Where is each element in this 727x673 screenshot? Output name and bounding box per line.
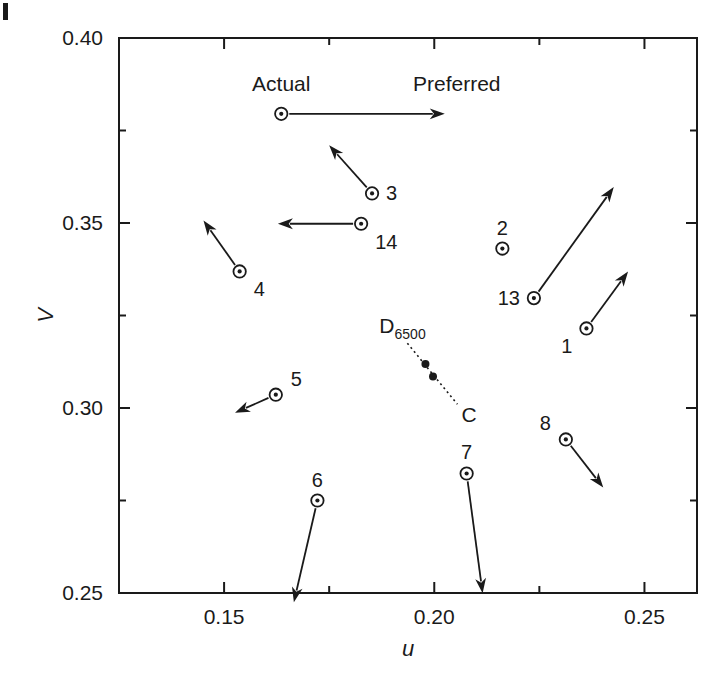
illuminant-point-c [429,373,437,381]
marker-5 [270,388,282,400]
marker-center-dot [279,112,283,116]
point-label-13: 13 [498,287,520,309]
y-axis-tick-labels: 0.400.350.300.25 [62,26,103,604]
data-point-1: 1 [561,271,628,357]
axis-ticks [119,38,697,593]
data-points: 123456781314 [203,145,628,602]
shift-arrow-6-shaft [297,508,316,590]
marker-7 [460,467,472,479]
marker-center-dot [274,393,278,397]
marker-6 [311,494,323,506]
data-point-8: 8 [540,412,604,487]
legend-marker [275,108,287,120]
scatter-plot: 0.400.350.300.25 0.150.200.25 V u Actual… [0,0,727,673]
shift-arrow-3-shaft [337,154,367,187]
marker-center-dot [359,222,363,226]
data-point-6: 6 [292,469,324,603]
shift-arrow-13-head [601,187,614,202]
x-tick-label: 0.20 [414,605,455,628]
marker-center-dot [584,326,588,330]
illuminant-d6500-label: D6500 [379,314,426,342]
y-tick-label: 0.35 [62,211,103,234]
data-point-3: 3 [329,145,397,204]
marker-13 [528,292,540,304]
shift-arrow-1-shaft [591,281,621,322]
shift-arrow-7-shaft [468,481,481,581]
y-tick-label: 0.30 [62,396,103,419]
marker-center-dot [465,471,469,475]
shift-arrow-1-head [615,271,628,286]
data-point-4: 4 [203,220,264,300]
marker-center-dot [500,246,504,250]
data-point-7: 7 [460,441,486,593]
marker-2 [496,242,508,254]
shift-arrow-4-head [203,220,216,235]
shift-arrow-8-shaft [571,446,596,478]
y-tick-label: 0.40 [62,26,103,49]
marker-center-dot [564,437,568,441]
illuminant-annotation: D6500C [379,314,476,426]
marker-center-dot [532,296,536,300]
marker-14 [355,218,367,230]
point-label-14: 14 [375,231,397,253]
point-label-8: 8 [540,412,551,434]
point-label-1: 1 [561,335,572,357]
marker-4 [233,265,245,277]
figure-container: 0.400.350.300.25 0.150.200.25 V u Actual… [0,0,727,673]
marker-8 [560,433,572,445]
illuminant-c-label: C [461,403,476,426]
preferred-label: Preferred [413,72,501,95]
point-label-5: 5 [291,368,302,390]
y-tick-label: 0.25 [62,581,103,604]
shift-arrow-5-shaft [246,398,269,408]
shift-arrow-8-head [590,472,603,487]
x-tick-label: 0.15 [204,605,245,628]
point-label-3: 3 [386,182,397,204]
point-label-7: 7 [461,441,472,463]
point-label-4: 4 [254,278,265,300]
data-point-13: 13 [498,187,614,309]
plot-frame [119,38,697,593]
marker-center-dot [370,191,374,195]
marker-center-dot [315,498,319,502]
data-point-2: 2 [496,217,508,255]
y-axis-title: V [33,306,58,323]
shift-arrow-4-shaft [210,230,235,265]
x-axis-title: u [402,636,414,661]
marker-center-dot [238,269,242,273]
data-point-14: 14 [278,218,397,253]
marker-3 [366,187,378,199]
x-axis-tick-labels: 0.150.200.25 [204,605,665,628]
x-tick-label: 0.25 [624,605,665,628]
page-corner-mark [3,3,8,20]
point-label-6: 6 [312,469,323,491]
point-label-2: 2 [497,217,508,239]
shift-arrow-13-shaft [539,197,607,292]
marker-1 [580,322,592,334]
legend-annotation: ActualPreferred [252,72,500,120]
actual-label: Actual [252,72,310,95]
illuminant-point-d6500 [421,360,429,368]
data-point-5: 5 [235,368,302,413]
